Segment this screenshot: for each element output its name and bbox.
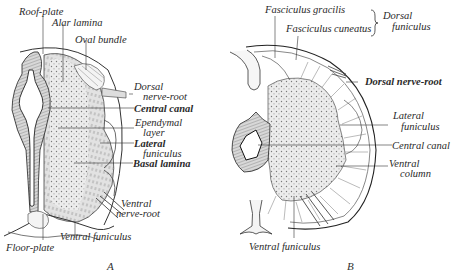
label-ventral-funiculus-b: Ventral funiculus [249, 242, 320, 252]
label-ventral-column-line2: column [400, 169, 431, 179]
caption-figure-a: A [107, 260, 114, 272]
label-lateral-funiculus-b-line1: Lateral [393, 111, 424, 121]
label-dorsal-funiculus-line2: funiculus [392, 22, 431, 32]
label-ependymal-layer-line2: layer [143, 128, 165, 138]
label-dorsal-funiculus-line1: Dorsal [383, 11, 412, 21]
label-fasciculus-gracilis: Fasciculus gracilis [265, 5, 345, 15]
label-ventral-funiculus-a: Ventral funiculus [60, 232, 131, 242]
figure-b-drawing [230, 10, 392, 238]
diagram-canvas: Roof-plate Alar lamina Oval bundle Dorsa… [0, 0, 458, 276]
label-dorsal-nerve-root-b: Dorsal nerve-root [365, 77, 442, 87]
label-ventral-nerve-root-a-line2: nerve-root [116, 209, 160, 219]
caption-figure-b: B [347, 260, 354, 272]
label-fasciculus-cuneatus: Fasciculus cuneatus [286, 24, 371, 34]
figure-a-drawing [4, 16, 134, 240]
label-floor-plate: Floor-plate [6, 243, 54, 253]
label-alar-lamina: Alar lamina [52, 18, 102, 28]
label-oval-bundle: Oval bundle [75, 35, 127, 45]
label-lateral-funiculus-b-line2: funiculus [401, 122, 440, 132]
label-central-canal-b: Central canal [392, 141, 450, 151]
brace-bracket [371, 10, 378, 36]
label-roof-plate: Roof-plate [19, 7, 63, 17]
label-central-canal-a: Central canal [134, 104, 193, 114]
label-dorsal-nerve-root-a-line2: nerve-root [143, 92, 187, 102]
label-basal-lamina: Basal lamina [133, 159, 190, 169]
